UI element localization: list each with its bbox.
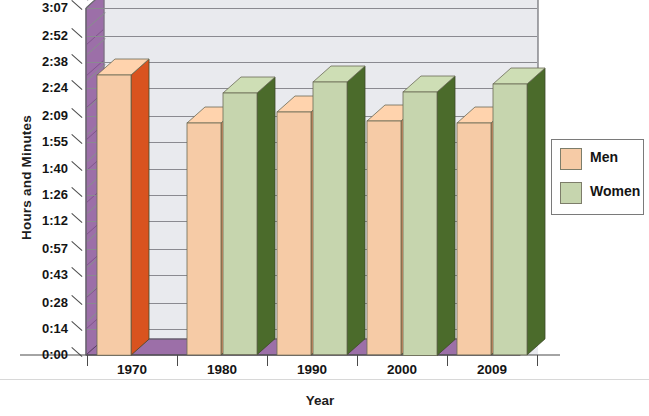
bar-1980-women xyxy=(223,77,257,355)
legend-item-women: Women xyxy=(560,180,646,206)
paper-edge xyxy=(0,379,649,380)
x-tick-mark xyxy=(177,355,178,366)
bar-2009-women xyxy=(493,68,527,355)
legend-item-men: Men xyxy=(560,146,646,172)
y-tick-label: 0:43 xyxy=(22,267,68,282)
x-tick-mark xyxy=(447,355,448,366)
gridline xyxy=(87,88,537,89)
plot-area: 0:000:140:280:430:571:121:261:401:552:09… xyxy=(0,0,649,416)
legend-label-men: Men xyxy=(590,149,618,165)
bar-3d-faces xyxy=(97,59,151,357)
bar-2000-women xyxy=(403,76,437,355)
legend-swatch-women xyxy=(560,182,582,204)
x-tick-mark xyxy=(537,355,538,366)
x-tick-label: 2000 xyxy=(367,362,437,377)
y-tick-label: 0:28 xyxy=(22,295,68,310)
y-tick-label: 0:00 xyxy=(22,347,68,362)
bar-1990-men xyxy=(277,96,311,355)
bar-1970-men xyxy=(97,59,131,355)
bar-3d-faces xyxy=(223,77,277,357)
legend-label-women: Women xyxy=(590,183,640,199)
x-tick-label: 1990 xyxy=(277,362,347,377)
bar-3d-faces xyxy=(403,76,457,357)
x-tick-mark xyxy=(87,355,88,366)
legend: Men Women xyxy=(551,139,644,215)
bar-3d-faces xyxy=(493,68,547,357)
x-tick-label: 1980 xyxy=(187,362,257,377)
x-tick-label: 1970 xyxy=(97,362,167,377)
x-tick-mark xyxy=(267,355,268,366)
y-tick-label: 2:52 xyxy=(22,28,68,43)
bar-1980-men xyxy=(187,107,221,355)
bar-2009-men xyxy=(457,107,491,355)
y-tick-label: 3:07 xyxy=(22,0,68,15)
y-tick-label: 2:24 xyxy=(22,80,68,95)
gridline xyxy=(87,36,537,37)
x-axis-title: Year xyxy=(230,393,410,408)
y-tick-label: 0:14 xyxy=(22,321,68,336)
chart-screenshot: Average Hours Worked per Day xyxy=(0,0,649,416)
bar-1990-women xyxy=(313,66,347,355)
bar-3d-faces xyxy=(313,66,367,357)
x-tick-label: 2009 xyxy=(457,362,527,377)
y-axis-title: Hours and Minutes xyxy=(19,98,34,258)
legend-swatch-men xyxy=(560,148,582,170)
gridline xyxy=(87,62,537,63)
x-tick-mark xyxy=(357,355,358,366)
y-tick-label: 2:38 xyxy=(22,54,68,69)
bar-2000-men xyxy=(367,105,401,355)
gridline xyxy=(87,8,537,9)
